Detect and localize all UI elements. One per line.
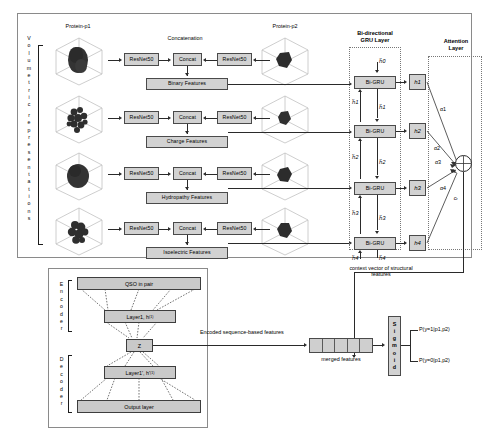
- encoded-to-merge-arrow: [304, 343, 307, 347]
- protein-p1-cube-3: [52, 150, 106, 202]
- row1-resnet50-right: ResNet50: [217, 53, 252, 66]
- protein-p1-cube-1: [52, 35, 106, 87]
- row3-concat-down-arrow: [185, 187, 189, 190]
- gru-cell-3: Bi-GRU: [354, 182, 396, 195]
- attention-weight-alpha1: α1: [437, 107, 449, 113]
- sigmoid-letter: d: [393, 364, 396, 371]
- encoder-bracket: [68, 280, 72, 332]
- concatenation-label: Concatenation: [150, 36, 220, 42]
- sigmoid-letter: o: [393, 350, 396, 357]
- row3-p2-line: [256, 174, 270, 175]
- context-vector-label: cₜ: [450, 196, 462, 202]
- row2-right-to-concat-line: [206, 118, 217, 119]
- volumetric-representation-label: Volumetric representations: [24, 35, 34, 223]
- row4-feature-box: Isoelectric Features: [146, 247, 228, 259]
- row1-resnet50-left: ResNet50: [124, 53, 159, 66]
- gru-state-forward-h0: h⃗0: [379, 59, 395, 65]
- gru-cell-2: Bi-GRU: [354, 125, 396, 138]
- row4-left-to-concat-arrow: [168, 227, 171, 231]
- merged-feature-segment: [348, 339, 361, 352]
- decoder-hidden-text: Layer1', h': [125, 370, 150, 376]
- attention-weight-alpha4: α4: [437, 186, 449, 192]
- row3-feature-box: Hydropathy Features: [146, 192, 228, 204]
- output-positive-label: P(y=1|p1,p2): [419, 327, 481, 333]
- sigmoid-letter: g: [393, 335, 396, 342]
- gru3-to-h3-arrow: [404, 186, 407, 190]
- gru-state-backward-h1: h⃖1: [352, 100, 368, 106]
- row3-resnet50-left: ResNet50: [124, 167, 159, 180]
- row4-feature-to-gru-line: [228, 243, 350, 244]
- decoder-bracket: [68, 355, 72, 413]
- gru-forward-line-3: [377, 195, 378, 230]
- merged-feature-segment: [310, 339, 323, 352]
- row2-resnet50-left: ResNet50: [124, 111, 159, 124]
- row4-resnet50-left: ResNet50: [124, 222, 159, 235]
- row1-concat-down-arrow: [185, 73, 189, 76]
- gru-state-forward-h3: h⃗3: [379, 216, 395, 222]
- attention-sum-cross: [455, 155, 472, 172]
- row1-feature-to-gru-line: [228, 84, 350, 85]
- gru-forward-line-1: [377, 89, 378, 118]
- attention-weight-alpha3: α3: [432, 160, 444, 166]
- autoencoder-input-layer: QSO in pair: [77, 277, 201, 290]
- row1-concat: Concat: [173, 53, 202, 66]
- gru-cell-4: Bi-GRU: [354, 237, 396, 250]
- decoder-hidden-sup: (1): [150, 371, 154, 375]
- sigmoid-letter: m: [392, 342, 397, 349]
- row1-left-to-concat-arrow: [168, 58, 171, 62]
- row2-concat: Concat: [173, 111, 202, 124]
- merged-features-label: merged features: [309, 357, 373, 363]
- row4-resnet50-right: ResNet50: [217, 222, 252, 235]
- gru-layer-title: Bi-directional GRU Layer: [342, 30, 408, 44]
- row3-right-to-concat-line: [206, 174, 217, 175]
- gru-state-forward-h1: h⃗1: [379, 105, 395, 111]
- sigmoid-out-split: [410, 330, 411, 361]
- protein-p1-label: Protein-p1: [48, 24, 108, 30]
- row1-feature-box: Binary Features: [146, 78, 228, 90]
- gru-forward-line-4: [377, 250, 378, 258]
- sigmoid-out-bottom: [410, 361, 418, 362]
- gru-forward-arrow-1: [375, 119, 379, 122]
- merged-features-bar: [309, 338, 373, 353]
- decoder-label: Decoder: [57, 356, 66, 408]
- gru1-to-h1-arrow: [404, 80, 407, 84]
- row4-concat-down-arrow: [185, 242, 189, 245]
- protein-p2-cube-4: [258, 205, 312, 257]
- merged-to-sigmoid-arrow: [382, 343, 385, 347]
- merged-feature-segment: [323, 339, 336, 352]
- z-to-encoded-line: [153, 345, 305, 346]
- encoder-label: Encoder: [57, 281, 66, 333]
- row2-feature-box: Charge Features: [146, 136, 228, 148]
- sigmoid-letter: i: [394, 357, 396, 364]
- gru-forward-arrow-3: [375, 231, 379, 234]
- gru-state-backward-h2: h⃖2: [352, 155, 368, 161]
- row2-p1-arrow: [119, 116, 122, 120]
- protein-p2-cube-2: [258, 93, 312, 145]
- row4-p1-arrow: [119, 227, 122, 231]
- sigmoid-out-stem: [401, 345, 410, 346]
- merged-feature-segment: [360, 339, 372, 352]
- protein-p1-cube-4: [52, 205, 106, 257]
- gru-backward-arrow-3: [358, 195, 362, 198]
- row3-concat: Concat: [173, 167, 202, 180]
- encoder-hidden-text: Layer1, h: [127, 314, 149, 320]
- protein-p1-cube-2: [52, 93, 106, 145]
- gru4-to-h4-arrow: [404, 241, 407, 245]
- autoencoder-encoder-hidden: Layer1, h(1): [104, 310, 176, 323]
- row2-left-to-concat-arrow: [168, 116, 171, 120]
- gru-state-backward-h3: h⃖3: [352, 211, 368, 217]
- gru-forward-line-2: [377, 138, 378, 175]
- attention-title-line1: Attention: [444, 38, 469, 44]
- autoencoder-output-layer: Output layer: [77, 400, 201, 413]
- gru-state-forward-h2: h⃗2: [379, 160, 395, 166]
- attention-title-line2: Layer: [449, 45, 464, 51]
- row2-feature-to-gru-line: [228, 132, 350, 133]
- autoencoder-decoder-hidden: Layer1', h'(1): [104, 366, 176, 379]
- gru-forward-arrow-0: [375, 70, 379, 73]
- sigmoid-out-top: [410, 330, 418, 331]
- row4-right-to-concat-line: [206, 229, 217, 230]
- row4-concat: Concat: [173, 222, 202, 235]
- diagram-canvas: Volumetric representations Protein-p1: [0, 0, 490, 445]
- row3-left-to-concat-arrow: [168, 172, 171, 176]
- protein-p2-label: Protein-p2: [255, 24, 315, 30]
